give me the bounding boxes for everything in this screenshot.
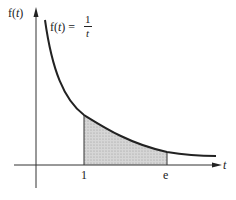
- x-axis-label: t: [223, 159, 226, 171]
- x-tick-e: e: [163, 169, 168, 181]
- chart: f(t) f(t) = 1 t 1 e t: [0, 0, 236, 200]
- plot-area: [0, 0, 236, 200]
- y-label-post: ): [19, 6, 23, 20]
- fn-lhs: f(: [50, 20, 58, 34]
- x-tick-1: 1: [81, 169, 87, 181]
- y-axis-label: f(t): [8, 7, 23, 19]
- curve-1-over-t: [45, 20, 216, 156]
- y-label-pre: f(: [8, 6, 16, 20]
- fn-rhs: ) =: [61, 20, 75, 34]
- x-axis-arrow-icon: [212, 163, 222, 168]
- function-label: f(t) =: [50, 21, 75, 33]
- fraction-denominator: t: [86, 28, 89, 39]
- y-axis-arrow-icon: [34, 7, 39, 17]
- fraction-numerator: 1: [85, 14, 91, 25]
